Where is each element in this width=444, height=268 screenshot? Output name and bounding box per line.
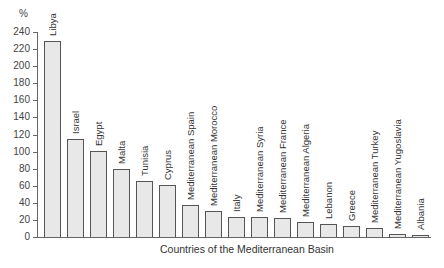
y-tick bbox=[33, 135, 37, 136]
bar-label: Mediterranean Syria bbox=[254, 127, 265, 213]
y-tick-label: 240 bbox=[10, 26, 30, 37]
bar-label: Italy bbox=[231, 194, 242, 211]
y-tick-label: 0 bbox=[10, 231, 30, 242]
bar bbox=[251, 217, 268, 237]
bar bbox=[389, 234, 406, 237]
bar bbox=[366, 228, 383, 237]
bar bbox=[343, 226, 360, 237]
y-tick bbox=[33, 152, 37, 153]
bar-label: Mediterranean France bbox=[277, 120, 288, 213]
bar-label: Greece bbox=[346, 190, 357, 221]
bar bbox=[297, 222, 314, 237]
y-tick bbox=[33, 66, 37, 67]
bar bbox=[412, 235, 429, 237]
y-tick-label: 80 bbox=[10, 163, 30, 174]
bar-label: Mediterranean Turkey bbox=[369, 130, 380, 222]
x-axis-line bbox=[37, 237, 431, 238]
bar bbox=[90, 151, 107, 237]
y-tick-label: 120 bbox=[10, 129, 30, 140]
y-tick bbox=[33, 169, 37, 170]
y-tick bbox=[33, 237, 37, 238]
y-tick bbox=[33, 186, 37, 187]
bar-label: Tunisia bbox=[139, 146, 150, 176]
y-tick-label: 20 bbox=[10, 214, 30, 225]
bar-label: Mediterranean Morocco bbox=[208, 106, 219, 206]
y-axis-label: % bbox=[19, 8, 28, 19]
bar-label: Egypt bbox=[93, 121, 104, 145]
bar-label: Lebanon bbox=[323, 182, 334, 219]
bar bbox=[205, 211, 222, 237]
bar-label: Mediterranean Spain bbox=[185, 112, 196, 200]
y-tick-label: 220 bbox=[10, 43, 30, 54]
bar bbox=[274, 218, 291, 237]
bar-label: Israel bbox=[70, 111, 81, 134]
bar-chart: % 020406080100120140160180200220240 Liby… bbox=[0, 0, 444, 268]
bar bbox=[113, 169, 130, 237]
y-tick bbox=[33, 117, 37, 118]
y-tick-label: 200 bbox=[10, 60, 30, 71]
bar-label: Malta bbox=[116, 140, 127, 163]
y-tick-label: 160 bbox=[10, 94, 30, 105]
y-tick-label: 40 bbox=[10, 197, 30, 208]
bar bbox=[320, 224, 337, 237]
y-tick-label: 140 bbox=[10, 111, 30, 122]
bar bbox=[182, 205, 199, 237]
bar bbox=[159, 185, 176, 237]
y-tick bbox=[33, 49, 37, 50]
bar bbox=[44, 41, 61, 237]
bar bbox=[228, 217, 245, 238]
y-tick-label: 60 bbox=[10, 180, 30, 191]
y-tick bbox=[33, 83, 37, 84]
y-tick bbox=[33, 203, 37, 204]
y-tick bbox=[33, 32, 37, 33]
y-tick-label: 180 bbox=[10, 77, 30, 88]
y-tick bbox=[33, 100, 37, 101]
y-tick bbox=[33, 220, 37, 221]
bar bbox=[67, 139, 84, 237]
x-axis-label: Countries of the Mediterranean Basin bbox=[160, 243, 334, 255]
y-axis-line bbox=[37, 32, 38, 238]
bar bbox=[136, 181, 153, 237]
bar-label: Mediterranean Yugoslavia bbox=[392, 119, 403, 229]
bar-label: Mediterranean Algeria bbox=[300, 125, 311, 218]
bar-label: Cyprus bbox=[162, 150, 173, 180]
bar-label: Libya bbox=[47, 14, 58, 37]
y-tick-label: 100 bbox=[10, 146, 30, 157]
bar-label: Albania bbox=[415, 199, 426, 231]
